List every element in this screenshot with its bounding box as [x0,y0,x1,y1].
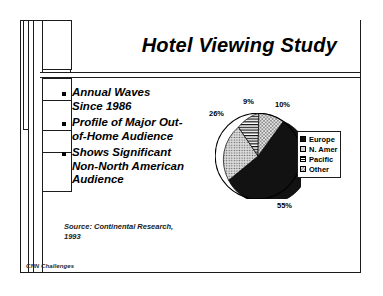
legend-swatch-icon [300,166,306,172]
pie-chart: 9% 10% 26% 55% Europe N. Amer Pacific Ot… [205,95,355,220]
page-title: Hotel Viewing Study [142,34,360,57]
legend-item-label: Europe [309,135,335,144]
pie-graphic [215,113,301,199]
legend-swatch-icon [300,136,306,142]
list-item: Profile of Major Out- of-Home Audience [62,116,202,143]
legend-swatch-icon [300,156,306,162]
pie-label-europe: 55% [277,201,292,210]
list-item: Shows Significant Non-North American Aud… [62,146,202,187]
list-item-label: Annual Waves Since 1986 [72,86,150,113]
placeholder-outline-2 [33,20,43,273]
square-bullet-icon [62,146,72,156]
pie-svg [215,113,301,199]
square-bullet-icon [62,86,72,96]
footer-label: CNN Challenges [26,263,74,269]
pie-label-pacific: 9% [243,97,254,106]
bullet-list: Annual Waves Since 1986 Profile of Major… [62,86,202,190]
legend-item-label: N. Amer [309,145,337,154]
square-bullet-icon [62,116,72,126]
pie-label-other: 10% [275,100,290,109]
placeholder-outline-3 [39,20,72,70]
source-note: Source: Continental Research, 1993 [64,222,214,242]
title-underline-rule [40,72,361,78]
legend-item-pacific: Pacific [300,154,337,164]
legend-item-other: Other [300,164,337,174]
legend-item-europe: Europe [300,134,337,144]
pie-label-n-amer: 26% [209,109,224,118]
list-item-label: Shows Significant Non-North American Aud… [72,146,184,187]
chart-legend: Europe N. Amer Pacific Other [297,131,341,178]
legend-item-label: Other [309,165,329,174]
legend-swatch-icon [300,146,306,152]
legend-item-n-amer: N. Amer [300,144,337,154]
list-item-label: Profile of Major Out- of-Home Audience [72,116,183,143]
slide-canvas: Hotel Viewing Study Annual Waves Since 1… [0,0,383,296]
list-item: Annual Waves Since 1986 [62,86,202,113]
legend-item-label: Pacific [309,155,333,164]
title-placeholder: Hotel Viewing Study [72,20,361,70]
